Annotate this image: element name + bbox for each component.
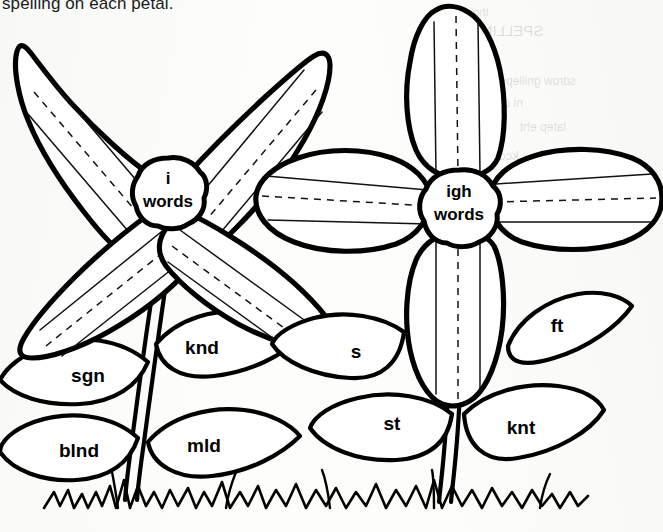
right-leaf-ft: ft xyxy=(508,293,632,363)
left-leaf-label-mld: mld xyxy=(187,435,221,456)
left-flower-center: i words xyxy=(132,158,206,229)
left-leaf-label-sgn: sgn xyxy=(71,365,105,386)
right-petal-left xyxy=(256,151,430,252)
right-petal-top xyxy=(407,6,505,178)
right-center-label-line2: words xyxy=(433,205,484,224)
worksheet-illustration: sgn knd blnd mld xyxy=(0,0,663,532)
right-leaf-s: s xyxy=(272,314,404,378)
left-center-label-line1: i xyxy=(166,169,171,188)
right-center-label-line1: igh xyxy=(446,182,472,201)
right-leaf-label-knt: knt xyxy=(507,417,536,438)
right-leaf-knt: knt xyxy=(464,385,604,459)
right-leaf-label-s: s xyxy=(351,341,362,362)
right-leaf-st: st xyxy=(310,395,452,461)
right-petal-bottom xyxy=(407,232,504,406)
right-leaf-label-st: st xyxy=(384,413,402,434)
left-leaf-blnd: blnd xyxy=(0,415,138,480)
worksheet-page: spelling on each petal. thgir eht niSPEL… xyxy=(0,0,663,532)
right-leaf-label-ft: ft xyxy=(551,315,564,336)
right-petal-right xyxy=(490,149,662,249)
left-leaf-mld: mld xyxy=(148,409,300,476)
left-leaf-label-knd: knd xyxy=(185,337,219,358)
left-plant: sgn knd blnd mld xyxy=(0,46,336,500)
left-leaf-label-blnd: blnd xyxy=(59,440,99,461)
right-flower-center: igh words xyxy=(420,170,501,247)
left-center-label-line2: words xyxy=(142,192,193,211)
